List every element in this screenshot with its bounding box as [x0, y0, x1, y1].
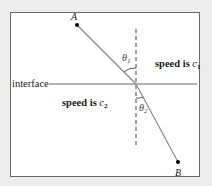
- point-a-label: A: [71, 12, 77, 22]
- region-top-label: speed is c1: [155, 59, 201, 71]
- point-b-dot: [176, 160, 180, 164]
- region-bottom-label: speed is c2: [62, 98, 108, 110]
- theta2-label: θ2: [139, 103, 147, 115]
- ray-segment-2: [136, 84, 178, 162]
- theta1-arc: [124, 68, 136, 72]
- interface-label: interface: [12, 79, 49, 90]
- theta1-label: θ1: [122, 53, 130, 65]
- theta2-arc: [136, 97, 143, 98]
- point-a-dot: [75, 23, 79, 27]
- refraction-diagram: [0, 0, 212, 186]
- point-b-label: B: [175, 168, 181, 178]
